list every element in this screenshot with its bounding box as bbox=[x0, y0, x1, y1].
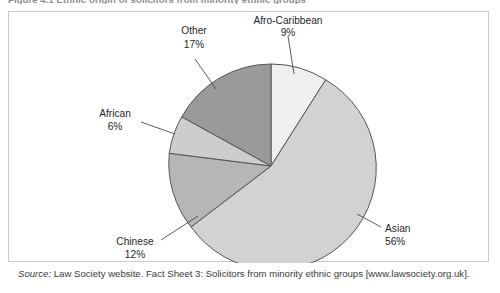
leader-line-african bbox=[141, 122, 175, 134]
chart-panel: Afro-Caribbean 9% Other 17% African 6% C… bbox=[8, 11, 489, 262]
pie-label-african-value: 6% bbox=[108, 121, 123, 132]
pie-label-chinese-name: Chinese bbox=[116, 236, 154, 247]
pie-label-afro-caribbean-name: Afro-Caribbean bbox=[253, 15, 322, 26]
pie-label-afro-caribbean-value: 9% bbox=[281, 27, 296, 38]
leader-line-other bbox=[195, 59, 216, 89]
pie-label-other-value: 17% bbox=[184, 39, 204, 50]
pie-label-chinese-value: 12% bbox=[125, 249, 145, 260]
source-text: Law Society website. Fact Sheet 3: Solic… bbox=[51, 268, 469, 279]
source-label: Source: bbox=[18, 268, 51, 279]
pie-chart: Afro-Caribbean 9% Other 17% African 6% C… bbox=[9, 12, 490, 263]
pie-label-asian-value: 56% bbox=[385, 236, 405, 247]
pie-label-other-name: Other bbox=[181, 25, 207, 36]
pie-label-asian-name: Asian bbox=[385, 223, 410, 234]
figure-title: Figure 4.1 Ethnic origin of solicitors f… bbox=[8, 0, 488, 4]
pie-label-african-name: African bbox=[99, 108, 131, 119]
source-caption: Source: Law Society website. Fact Sheet … bbox=[18, 268, 488, 280]
